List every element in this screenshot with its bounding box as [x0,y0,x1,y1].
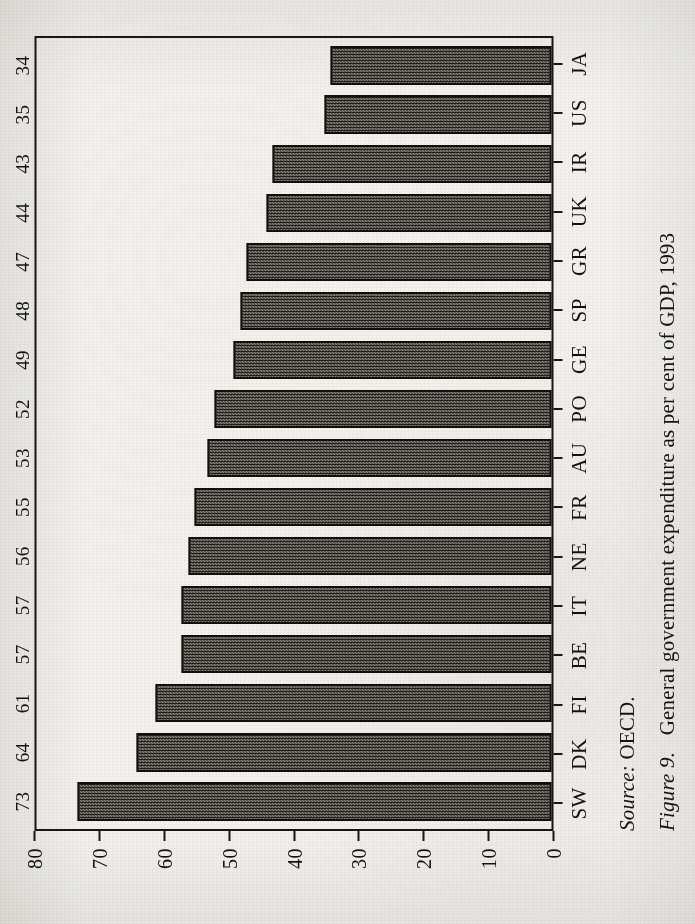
category-tick-mark [553,112,562,114]
bar: 61 [155,684,551,722]
category-tick-mark [553,260,562,262]
category-tick-slot: JA [553,39,599,88]
value-tick-mark [422,831,424,841]
category-tick-slot: DK [553,729,599,778]
bar-slot: 56 [36,532,551,581]
bar: 53 [207,439,551,477]
bar: 64 [136,733,551,771]
category-tick-slot: UK [553,187,599,236]
bar-slot: 34 [36,41,551,90]
value-tick-label: 60 [154,848,174,869]
bar: 55 [194,488,551,526]
scanned-book-page: 01020304050607080 7364615757565553524948… [0,0,695,924]
category-label: DK [568,738,589,769]
category-tick-mark [553,161,562,163]
category-tick-slot: GE [553,335,599,384]
bar-value-label: 49 [12,350,31,370]
bar-slot: 49 [36,335,551,384]
value-tick-label: 10 [478,848,498,869]
category-label: IR [568,151,589,173]
bar: 34 [330,46,551,84]
category-tick-mark [553,506,562,508]
source-line: Source: OECD. [612,31,640,831]
source-value: OECD. [614,696,638,759]
bar-slot: 55 [36,483,551,532]
bar-slot: 44 [36,188,551,237]
value-tick-mark [487,831,489,841]
bar-slot: 57 [36,630,551,679]
bar-slot: 43 [36,139,551,188]
bar: 35 [324,95,551,133]
category-tick-slot: SW [553,779,599,828]
category-tick-mark [553,408,562,410]
bar: 73 [77,782,551,820]
category-tick-mark [553,309,562,311]
category-label: GE [568,345,589,374]
bar-value-label: 55 [12,497,31,517]
bar-value-label: 64 [12,743,31,763]
bar-series: 73646157575655535249484744433534 [36,38,551,829]
bar-value-label: 61 [12,693,31,713]
category-tick-slot: SP [553,286,599,335]
bar-value-label: 47 [12,252,31,272]
category-label: BE [568,641,589,669]
bar-value-label: 34 [12,56,31,76]
category-tick-mark [553,556,562,558]
value-tick-label: 0 [543,848,563,859]
bar: 57 [181,635,551,673]
bar-value-label: 48 [12,301,31,321]
value-tick-label: 70 [89,848,109,869]
bar-value-label: 73 [12,792,31,812]
bar: 52 [214,390,551,428]
value-tick-mark [163,831,165,841]
bar-value-label: 53 [12,448,31,468]
category-tick-mark [553,63,562,65]
value-tick-label: 40 [284,848,304,869]
value-tick-label: 50 [219,848,239,869]
category-label: FR [568,494,589,521]
category-tick-slot: NE [553,532,599,581]
value-tick-mark [552,831,554,841]
value-axis: 01020304050607080 [34,831,553,892]
category-tick-mark [553,605,562,607]
category-tick-slot: FR [553,483,599,532]
bar-value-label: 56 [12,546,31,566]
category-tick-slot: FI [553,680,599,729]
category-tick-mark [553,654,562,656]
figure-caption-line: Figure 9. General government expenditure… [652,31,680,831]
category-tick-mark [553,704,562,706]
bar: 48 [240,292,551,330]
bar-value-label: 57 [12,595,31,615]
bar: 47 [246,243,551,281]
category-label: PO [568,395,589,423]
category-label: SP [568,298,589,322]
category-tick-slot: AU [553,434,599,483]
category-label: IT [568,596,589,617]
bar-slot: 61 [36,679,551,728]
value-tick-label: 80 [24,848,44,869]
value-tick-mark [98,831,100,841]
category-tick-slot: IR [553,138,599,187]
bar-value-label: 35 [12,105,31,125]
bar: 49 [233,341,551,379]
bar: 44 [266,194,551,232]
category-tick-mark [553,802,562,804]
category-label: US [568,99,589,127]
chart-plot-area: 73646157575655535249484744433534 [34,36,553,831]
bar-value-label: 44 [12,203,31,223]
figure-rotated-stage: 01020304050607080 7364615757565553524948… [0,0,695,924]
category-tick-mark [553,359,562,361]
bar-slot: 48 [36,286,551,335]
bar-value-label: 57 [12,644,31,664]
category-tick-mark [553,211,562,213]
category-label: JA [568,51,589,75]
value-tick-label: 20 [413,848,433,869]
category-tick-mark [553,753,562,755]
category-tick-slot: BE [553,631,599,680]
category-label: SW [568,787,589,820]
source-keyword: Source: [614,765,638,831]
value-tick-mark [228,831,230,841]
category-axis: SWDKFIBEITNEFRAUPOGESPGRUKIRUSJA [553,36,599,831]
figure-caption-text: General government expenditure as per ce… [654,233,678,736]
bar: 57 [181,586,551,624]
